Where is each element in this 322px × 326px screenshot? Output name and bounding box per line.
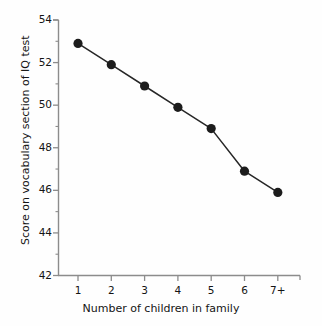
x-axis-title: Number of children in family [0,302,322,315]
x-axis-ticks [78,276,300,282]
chart-container: 42444648505254 1234567+ Number of childr… [0,0,322,326]
data-point [273,188,282,197]
y-axis-ticks [53,20,59,276]
x-axis-tick-label: 1 [62,284,94,296]
data-point-markers [73,39,282,197]
x-axis-tick-label: 2 [95,284,127,296]
data-point [240,167,249,176]
x-axis-tick-label: 3 [129,284,161,296]
x-axis-tick-label: 5 [195,284,227,296]
y-axis-tick-label: 42 [26,269,52,281]
data-point [207,124,216,133]
y-axis-tick-label: 54 [26,13,52,25]
x-axis-tick-label: 4 [162,284,194,296]
data-point [173,103,182,112]
axis-lines [58,20,300,276]
data-point [73,39,82,48]
x-axis-tick-label: 7+ [262,284,294,296]
y-axis-title: Score on vocabulary section of IQ test [19,35,32,245]
data-point [107,60,116,69]
data-point [140,81,149,90]
x-axis-tick-label: 6 [229,284,261,296]
